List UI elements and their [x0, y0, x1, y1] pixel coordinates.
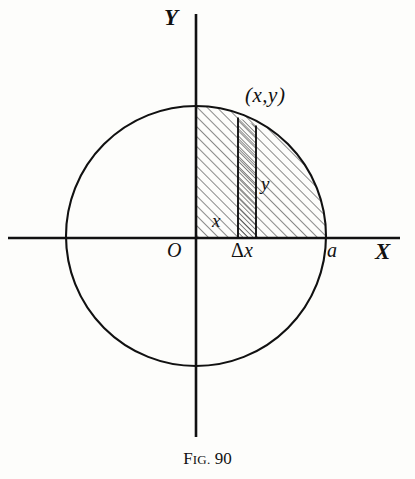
y-axis-label: Y	[164, 6, 178, 29]
ordinate-label: y	[261, 174, 269, 193]
figure-container: Y X O (x,y) x y Δx a FIG. 90	[0, 0, 415, 479]
delta-variable: x	[244, 239, 253, 261]
delta-symbol: Δ	[231, 239, 244, 261]
element-strip	[238, 118, 256, 239]
point-coordinates-label: (x,y)	[245, 85, 285, 106]
figure-drawing	[0, 0, 415, 479]
caption-lead: F	[183, 449, 192, 468]
strip-hatch-fill	[238, 118, 256, 239]
delta-x-label: Δx	[231, 240, 253, 260]
x-axis-label: X	[375, 240, 390, 263]
caption-number-value: 90	[215, 449, 232, 468]
abscissa-label: x	[212, 211, 220, 230]
origin-label: O	[167, 240, 181, 260]
figure-caption: FIG. 90	[0, 449, 415, 469]
radius-label: a	[327, 240, 337, 260]
caption-smallcaps: IG.	[193, 452, 211, 467]
